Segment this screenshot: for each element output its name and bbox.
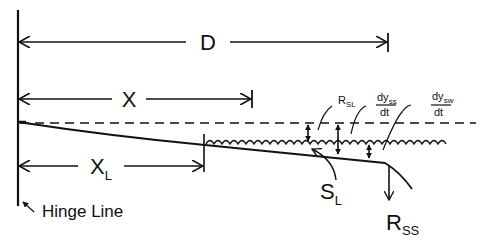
- dimension-d: D: [19, 30, 388, 55]
- svg-text:dysw: dysw: [432, 90, 454, 105]
- dimension-xl-label: XL: [90, 154, 112, 183]
- rss-label: RSS: [386, 210, 420, 238]
- dimension-x-label: X: [122, 87, 137, 112]
- sl-label: SL: [320, 179, 342, 208]
- svg-text:dt: dt: [434, 106, 443, 118]
- ice-surface-profile: [18, 122, 412, 189]
- hinge-line-label-group: Hinge Line: [23, 202, 123, 221]
- ice-shelf-diagram: D X XL Hinge Line: [0, 0, 485, 243]
- svg-text:dt: dt: [380, 106, 389, 118]
- svg-text:dyss: dyss: [377, 91, 397, 106]
- water-waves: [206, 141, 446, 145]
- svg-text:RSL: RSL: [338, 94, 356, 109]
- dimension-xl: XL: [19, 154, 203, 183]
- rsl-label: RSL: [338, 94, 356, 109]
- hinge-line-label: Hinge Line: [42, 202, 123, 221]
- dyss-dt-label: dyss dt: [376, 91, 397, 118]
- dimension-d-label: D: [200, 30, 216, 55]
- dimension-x: X: [19, 87, 252, 112]
- dashed-reference-line: [18, 122, 476, 123]
- dysw-dt-label: dysw dt: [431, 90, 454, 118]
